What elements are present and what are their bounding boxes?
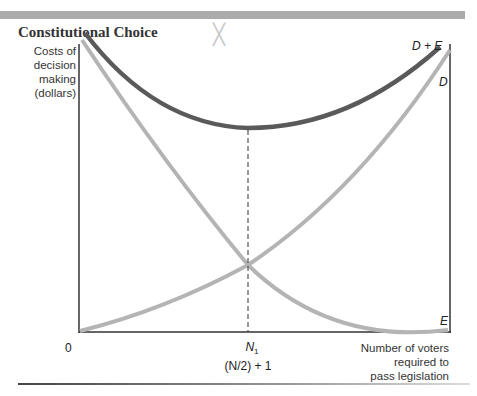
origin-label: 0 <box>65 341 72 355</box>
x-label-line: Number of voters <box>361 341 449 355</box>
n1-subscript: 1 <box>254 347 258 356</box>
n1-formula: (N/2) + 1 <box>224 359 272 373</box>
n1-label: N1 (N/2) + 1 <box>232 340 272 373</box>
x-label-line: required to <box>361 355 449 369</box>
label-d: D <box>439 75 448 89</box>
plot-area <box>0 0 477 396</box>
label-e: E <box>440 314 448 328</box>
n1-symbol: N <box>245 340 254 354</box>
x-axis-label: Number of voters required to pass legisl… <box>361 341 449 383</box>
curve-d <box>80 50 450 331</box>
curve-sum <box>85 33 440 128</box>
x-label-line: pass legislation <box>361 369 449 383</box>
bottom-rule <box>18 383 470 385</box>
label-sum: D + E <box>412 39 442 53</box>
